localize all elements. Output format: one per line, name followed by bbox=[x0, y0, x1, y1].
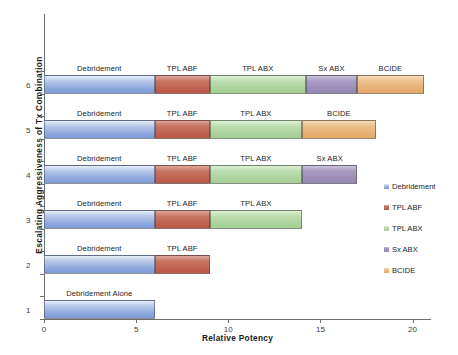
bar-segment: Debridement bbox=[44, 210, 155, 229]
y-minor-tick-mark bbox=[40, 206, 44, 207]
y-tick-mark bbox=[40, 229, 44, 230]
legend-item-label: TPL ABF bbox=[392, 203, 422, 212]
x-tick-mark bbox=[136, 319, 137, 323]
bar-segment: TPL ABF bbox=[155, 210, 210, 229]
y-tick-mark bbox=[40, 184, 44, 185]
bar-row: DebridementTPL ABFTPL ABXBCIDE bbox=[44, 120, 431, 139]
stacked-bar-chart: Escalating Aggressiveness of Tx Combinat… bbox=[0, 0, 458, 355]
y-tick-label: 2 bbox=[26, 260, 38, 269]
bar-segment: TPL ABX bbox=[210, 165, 302, 184]
bar-segment: BCIDE bbox=[302, 120, 376, 139]
bar-segment: TPL ABX bbox=[210, 120, 302, 139]
y-tick-mark bbox=[40, 274, 44, 275]
y-minor-tick-mark bbox=[40, 251, 44, 252]
legend-item[interactable]: TPL ABF bbox=[384, 197, 435, 218]
y-minor-tick-mark bbox=[40, 296, 44, 297]
legend-swatch-icon bbox=[384, 184, 389, 189]
bar-segment: Debridement bbox=[44, 75, 155, 94]
bar-segment-label: TPL ABF bbox=[167, 154, 198, 163]
bar-row: DebridementTPL ABFTPL ABXSx ABXBCIDE bbox=[44, 75, 431, 94]
legend-swatch-icon bbox=[384, 226, 389, 231]
legend-item-label: BCIDE bbox=[392, 266, 415, 275]
bar-row: DebridementTPL ABFTPL ABXSx ABX bbox=[44, 165, 431, 184]
y-tick-label: 5 bbox=[26, 125, 38, 134]
bar-segment: Debridement Alone bbox=[44, 300, 155, 319]
bar-segment: TPL ABF bbox=[155, 165, 210, 184]
legend-item[interactable]: Sx ABX bbox=[384, 239, 435, 260]
bar-segment-label: Debridement bbox=[77, 154, 122, 163]
x-tick-mark bbox=[320, 319, 321, 323]
bar-segment: Debridement bbox=[44, 255, 155, 274]
bar-row: DebridementTPL ABF bbox=[44, 255, 431, 274]
bar-segment-label: Debridement bbox=[77, 199, 122, 208]
y-minor-tick-mark bbox=[40, 116, 44, 117]
bar-segment: TPL ABF bbox=[155, 255, 210, 274]
y-minor-tick-mark bbox=[40, 71, 44, 72]
legend-swatch-icon bbox=[384, 247, 389, 252]
y-tick-label: 6 bbox=[26, 80, 38, 89]
legend-item-label: Debridement bbox=[392, 182, 435, 191]
bar-segment: TPL ABF bbox=[155, 120, 210, 139]
bar-segment: Debridement bbox=[44, 165, 155, 184]
y-tick-mark bbox=[40, 139, 44, 140]
legend-item[interactable]: BCIDE bbox=[384, 260, 435, 281]
bar-segment-label: Debridement bbox=[77, 244, 122, 253]
legend-item[interactable]: Debridement bbox=[384, 176, 435, 197]
bar-segment-label: Sx ABX bbox=[318, 64, 344, 73]
plot-area: 123456 05101520 Debridement AloneDebride… bbox=[44, 14, 431, 320]
bar-segment: TPL ABX bbox=[210, 210, 302, 229]
x-axis-title: Relative Potency bbox=[44, 333, 431, 343]
legend-swatch-icon bbox=[384, 205, 389, 210]
bar-row: DebridementTPL ABFTPL ABX bbox=[44, 210, 431, 229]
bar-segment: Sx ABX bbox=[302, 165, 357, 184]
legend-item[interactable]: TPL ABX bbox=[384, 218, 435, 239]
bar-segment: TPL ABX bbox=[210, 75, 306, 94]
x-tick-mark bbox=[44, 319, 45, 323]
bar-segment-label: TPL ABF bbox=[167, 244, 198, 253]
bar-row: Debridement Alone bbox=[44, 300, 431, 319]
bar-segment-label: TPL ABX bbox=[240, 154, 271, 163]
bar-segment-label: Debridement bbox=[77, 109, 122, 118]
legend-swatch-icon bbox=[384, 268, 389, 273]
chart-legend: DebridementTPL ABFTPL ABXSx ABXBCIDE bbox=[384, 176, 435, 281]
bar-segment-label: BCIDE bbox=[379, 64, 403, 73]
bar-segment-label: TPL ABF bbox=[167, 64, 198, 73]
bar-segment: Sx ABX bbox=[306, 75, 358, 94]
bar-segment: Debridement bbox=[44, 120, 155, 139]
bar-segment: BCIDE bbox=[357, 75, 423, 94]
x-tick-mark bbox=[413, 319, 414, 323]
y-tick-label: 1 bbox=[26, 305, 38, 314]
bar-segment-label: TPL ABX bbox=[240, 199, 271, 208]
y-tick-label: 4 bbox=[26, 170, 38, 179]
bar-segment-label: TPL ABX bbox=[240, 109, 271, 118]
x-axis-line bbox=[44, 319, 431, 320]
bar-segment-label: Debridement bbox=[77, 64, 122, 73]
legend-item-label: TPL ABX bbox=[392, 224, 423, 233]
bar-segment-label: Debridement Alone bbox=[66, 289, 132, 298]
legend-item-label: Sx ABX bbox=[392, 245, 418, 254]
y-tick-mark bbox=[40, 94, 44, 95]
bar-segment-label: Sx ABX bbox=[316, 154, 342, 163]
x-tick-mark bbox=[228, 319, 229, 323]
bar-segment-label: BCIDE bbox=[327, 109, 351, 118]
bar-segment: TPL ABF bbox=[155, 75, 210, 94]
y-axis-title: Escalating Aggressiveness of Tx Combinat… bbox=[34, 20, 44, 290]
bar-segment-label: TPL ABX bbox=[242, 64, 273, 73]
bar-segment-label: TPL ABF bbox=[167, 199, 198, 208]
bar-segment-label: TPL ABF bbox=[167, 109, 198, 118]
y-minor-tick-mark bbox=[40, 161, 44, 162]
y-tick-label: 3 bbox=[26, 215, 38, 224]
